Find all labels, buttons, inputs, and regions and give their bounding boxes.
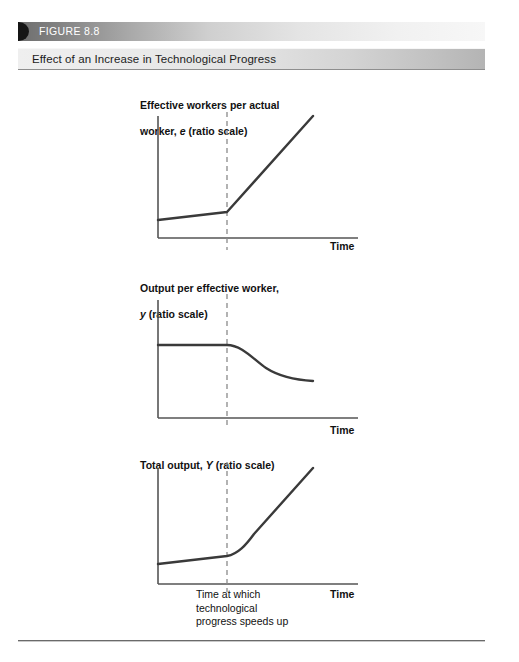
- bottom-divider: [18, 640, 485, 642]
- plot-effective-workers: [150, 110, 370, 250]
- x-axis-label-output-per-effective-worker: Time: [330, 424, 354, 436]
- panel-title-line1: Output per effective worker,: [140, 282, 279, 294]
- curve-effective-workers: [158, 116, 313, 220]
- x-axis-label-total-output: Time: [330, 588, 354, 600]
- figure-bullet-icon: [18, 22, 29, 41]
- curve-total-output: [158, 468, 313, 564]
- figure-number-bar: FIGURE 8.8: [18, 22, 485, 41]
- plot-output-per-effective-worker: [150, 294, 370, 426]
- figure-title: Effect of an Increase in Technological P…: [32, 53, 276, 65]
- plot-total-output: [150, 462, 370, 592]
- figure-title-bar: Effect of an Increase in Technological P…: [18, 48, 485, 70]
- x-axis-label-effective-workers: Time: [330, 240, 354, 252]
- figure-page: FIGURE 8.8 Effect of an Increase in Tech…: [0, 0, 519, 662]
- figure-number-label: FIGURE 8.8: [39, 25, 100, 37]
- curve-output-per-effective-worker: [158, 345, 313, 381]
- event-caption: Time at which technological progress spe…: [196, 588, 288, 629]
